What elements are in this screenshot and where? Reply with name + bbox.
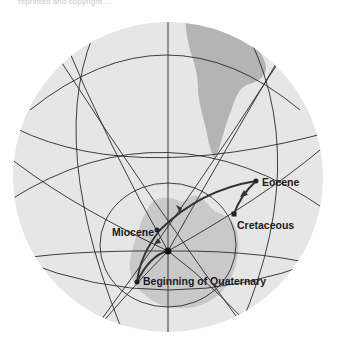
cretaceous-label: Cretaceous [237,219,294,231]
eocene-point [254,179,259,184]
globe-diagram [0,0,337,349]
quaternary-point [135,280,140,285]
cretaceous-point [232,212,237,217]
eocene-label: Eocene [262,176,299,188]
miocene-point [155,228,160,233]
quaternary-label: Beginning of Quaternary [143,275,266,287]
south-pole-point [165,248,172,255]
miocene-label: Miocene [112,226,154,238]
